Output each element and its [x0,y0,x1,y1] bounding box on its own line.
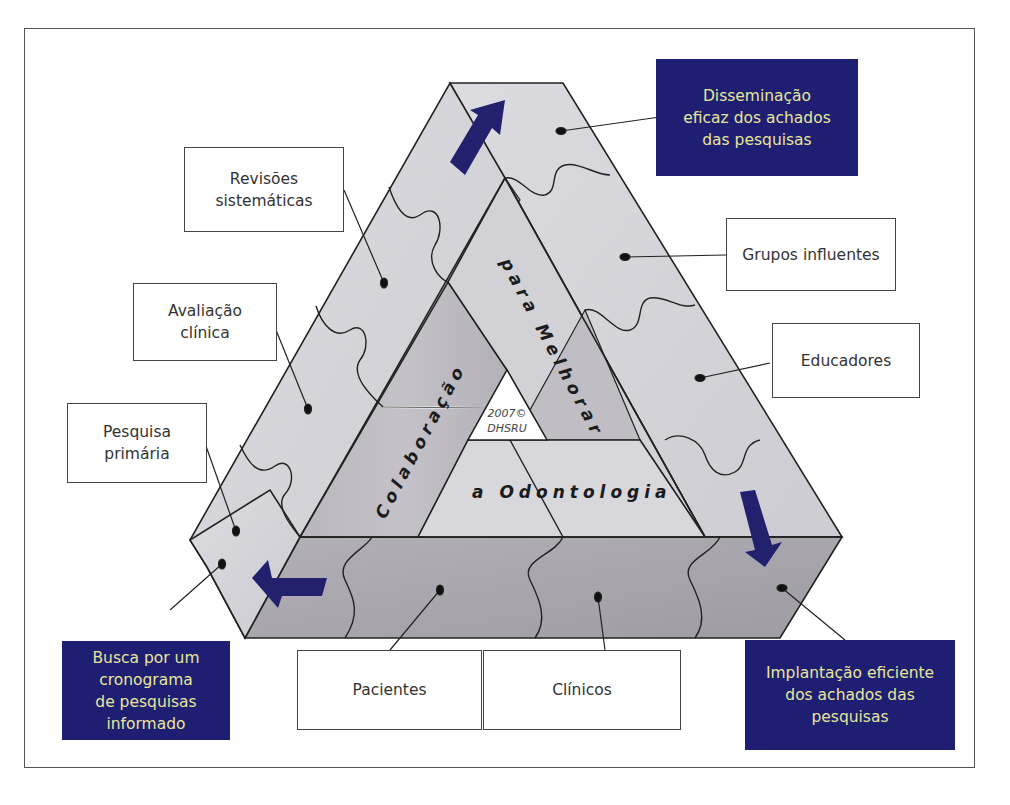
label-educadores: Educadores [772,323,920,398]
band-text-a-odontologia: a Odontologia [472,482,672,502]
copyright-org: DHSRU [487,422,526,435]
label-avaliacao-clinica: Avaliação clínica [133,283,277,361]
highlight-busca-cronograma: Busca por um cronograma de pesquisas inf… [62,641,230,740]
highlight-disseminacao: Disseminação eficaz dos achados das pesq… [656,59,858,176]
label-revisoes-sistematicas: Revisões sistemáticas [184,147,344,232]
highlight-implantacao: Implantação eficiente dos achados das pe… [745,640,955,750]
label-grupos-influentes: Grupos influentes [726,218,896,291]
label-clinicos: Clínicos [483,650,681,730]
copyright-year: 2007© [488,407,527,420]
label-pacientes: Pacientes [297,650,482,730]
label-pesquisa-primaria: Pesquisa primária [67,403,207,483]
